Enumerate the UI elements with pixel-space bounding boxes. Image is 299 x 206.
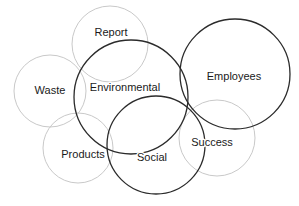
bubble-circle-environmental[interactable] <box>74 40 188 154</box>
bubble-label-report: Report <box>94 26 127 38</box>
circle-outline-layer <box>14 6 290 194</box>
bubble-label-employees: Employees <box>207 70 262 82</box>
venn-diagram-svg: WasteReportProductsSuccessEnvironmentalE… <box>0 0 299 206</box>
bubble-label-products: Products <box>61 148 105 160</box>
venn-diagram-canvas: WasteReportProductsSuccessEnvironmentalE… <box>0 0 299 206</box>
bubble-label-social: Social <box>137 151 167 163</box>
bubble-label-waste: Waste <box>35 84 66 96</box>
bubble-label-environmental: Environmental <box>90 81 160 93</box>
bubble-label-success: Success <box>191 136 233 148</box>
